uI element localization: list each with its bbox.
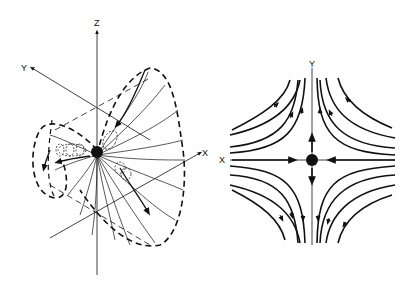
point-source-dot — [91, 146, 103, 158]
left-y-axis-label: Y — [21, 63, 27, 73]
right-x-axis-label: X — [219, 155, 225, 165]
right-y-axis-label: Y — [309, 59, 315, 69]
stream-arrow — [330, 112, 332, 116]
field-line-arrow — [44, 150, 50, 168]
field-line-arrow — [58, 156, 90, 162]
dashed-envelope-left — [33, 124, 97, 198]
stream-arrow — [280, 215, 282, 219]
stream-arrow — [328, 218, 329, 222]
stagnation-point-dot — [306, 154, 318, 166]
guide-line — [55, 78, 150, 130]
left-x-axis-label: X — [202, 148, 208, 158]
field-line-arrow — [117, 70, 145, 125]
right-saddle-flow-diagram — [230, 68, 395, 245]
left-z-axis-label: Z — [94, 18, 100, 28]
diagram-canvas: Z Y X — [0, 0, 415, 291]
left-3d-field-diagram — [32, 32, 200, 275]
stream-arrow — [301, 110, 302, 114]
